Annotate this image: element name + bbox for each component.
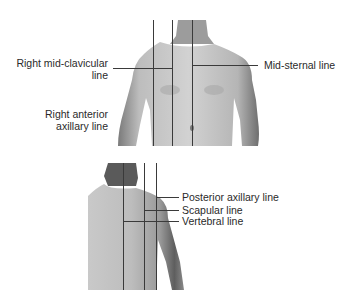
anterior-torso-figure (0, 0, 348, 301)
label-right-mid-clavicular-line-1: Right mid-clavicular (0, 57, 108, 69)
vertebral-leader (123, 221, 179, 222)
right-mid-clavicular-line-marker (172, 20, 173, 146)
label-posterior-axillary-line: Posterior axillary line (182, 191, 279, 203)
posterior-head (104, 163, 138, 186)
scapular-line-marker (144, 163, 145, 290)
label-right-anterior-axillary-line-2: axillary line (0, 120, 108, 132)
label-right-mid-clavicular-line: Right mid-clavicular line (0, 57, 108, 81)
mid-sternal-leader (192, 65, 258, 66)
right-anterior-axillary-line-marker (153, 20, 154, 146)
label-right-mid-clavicular-line-2: line (0, 69, 108, 81)
mid-sternal-line-marker (192, 20, 193, 146)
posterior-axillary-leader (156, 197, 179, 198)
posterior-torso (88, 184, 184, 290)
vertebral-line-marker (123, 163, 124, 290)
scapular-leader (144, 210, 179, 211)
label-right-anterior-axillary-line: Right anterior axillary line (0, 108, 108, 132)
right-mid-clavicular-leader (113, 68, 172, 69)
label-right-anterior-axillary-line-1: Right anterior (0, 108, 108, 120)
label-mid-sternal-line: Mid-sternal line (264, 59, 335, 71)
posterior-axillary-line-marker (156, 163, 157, 290)
anterior-torso (118, 42, 259, 146)
label-vertebral-line: Vertebral line (182, 215, 243, 227)
